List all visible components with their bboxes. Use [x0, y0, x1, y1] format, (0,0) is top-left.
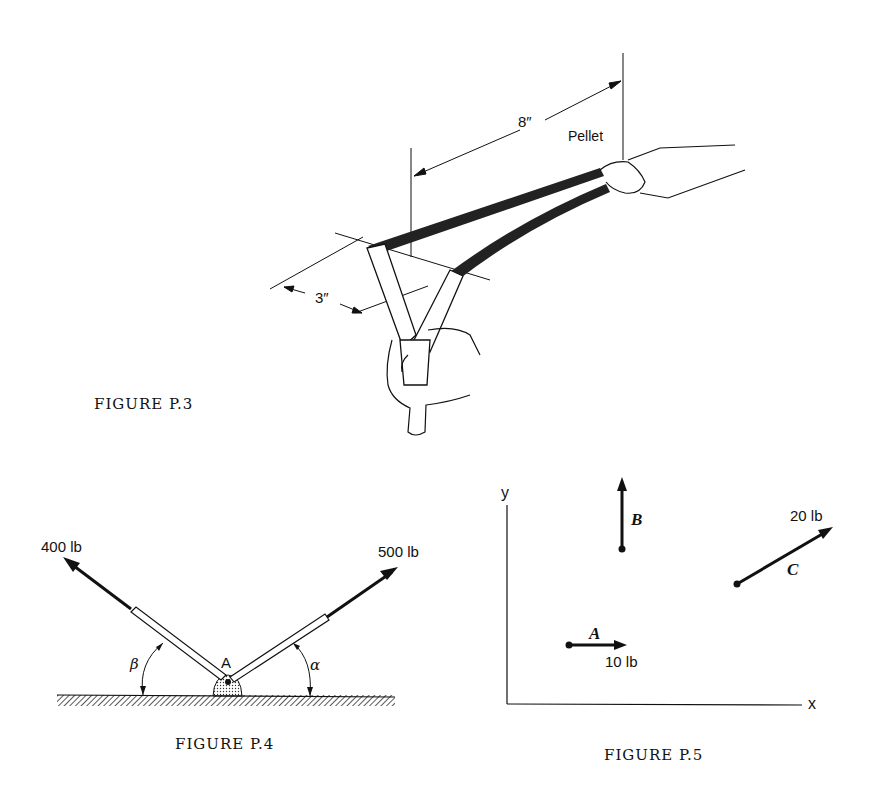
figure-p5-caption: FIGURE P.5: [604, 746, 703, 764]
vector-c-label: C: [787, 560, 798, 580]
x-axis-label: x: [808, 695, 816, 713]
vector-a-label: A: [589, 624, 600, 644]
vector-a-value: 10 lb: [605, 653, 638, 670]
y-axis-label: y: [501, 484, 509, 502]
vector-b-label: B: [631, 510, 642, 530]
vector-c-value: 20 lb: [790, 507, 823, 524]
vector-diagram-p5: [0, 0, 875, 787]
